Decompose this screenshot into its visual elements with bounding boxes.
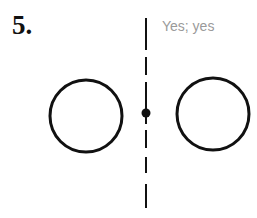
center-point bbox=[142, 109, 151, 118]
left-circle bbox=[50, 80, 122, 152]
symmetry-figure bbox=[0, 0, 257, 218]
right-circle bbox=[177, 78, 249, 150]
